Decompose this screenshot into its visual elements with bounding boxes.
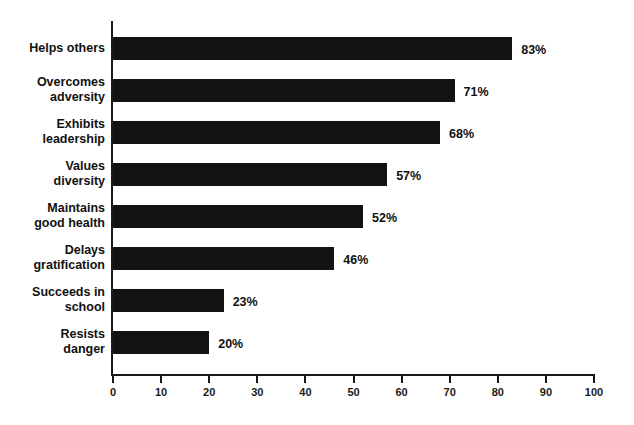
category-label: Valuesdiversity xyxy=(0,153,105,195)
x-axis-tick xyxy=(497,376,499,383)
x-axis-tick xyxy=(304,376,306,383)
x-axis-tick-label: 0 xyxy=(110,386,116,398)
bar-row: Helps others83% xyxy=(0,27,634,69)
x-axis-tick-label: 60 xyxy=(395,386,407,398)
category-label-line: Helps others xyxy=(29,41,105,56)
x-axis-tick-label: 90 xyxy=(540,386,552,398)
x-axis-tick xyxy=(449,376,451,383)
x-axis-tick xyxy=(401,376,403,383)
category-label-line: adversity xyxy=(50,90,105,105)
x-axis-tick-label: 40 xyxy=(299,386,311,398)
bar xyxy=(113,121,440,144)
x-axis-tick xyxy=(256,376,258,383)
x-axis-tick-label: 10 xyxy=(155,386,167,398)
category-label-line: Maintains xyxy=(47,201,105,216)
x-axis-tick xyxy=(593,376,595,383)
category-label-line: good health xyxy=(34,216,105,231)
x-axis-tick xyxy=(208,376,210,383)
category-label: Overcomesadversity xyxy=(0,69,105,111)
bar-row: Succeeds inschool23% xyxy=(0,279,634,321)
bar xyxy=(113,79,455,102)
x-axis-tick-label: 20 xyxy=(203,386,215,398)
bar xyxy=(113,289,224,312)
x-axis-tick xyxy=(160,376,162,383)
bar-value-label: 83% xyxy=(521,38,546,61)
category-label-line: Overcomes xyxy=(37,75,105,90)
category-label: Delaysgratification xyxy=(0,237,105,279)
bar xyxy=(113,331,209,354)
category-label: Exhibitsleadership xyxy=(0,111,105,153)
category-label-line: Resists xyxy=(61,327,105,342)
category-label-line: school xyxy=(65,300,105,315)
bar xyxy=(113,163,387,186)
category-label: Resistsdanger xyxy=(0,321,105,363)
x-axis-tick-label: 70 xyxy=(444,386,456,398)
x-axis-tick-label: 50 xyxy=(347,386,359,398)
x-axis-tick-label: 100 xyxy=(585,386,603,398)
plot-area: 0102030405060708090100 Helps others83%Ov… xyxy=(0,0,634,425)
bar xyxy=(113,37,512,60)
bar-value-label: 57% xyxy=(396,164,421,187)
category-label-line: leadership xyxy=(42,132,105,147)
x-axis-tick xyxy=(112,376,114,383)
category-label: Maintainsgood health xyxy=(0,195,105,237)
category-label-line: gratification xyxy=(33,258,105,273)
bar xyxy=(113,247,334,270)
bar-value-label: 68% xyxy=(449,122,474,145)
bar-value-label: 23% xyxy=(233,290,258,313)
x-axis-tick xyxy=(545,376,547,383)
x-axis-tick-label: 30 xyxy=(251,386,263,398)
bar-row: Maintainsgood health52% xyxy=(0,195,634,237)
bar-row: Delaysgratification46% xyxy=(0,237,634,279)
bar-value-label: 52% xyxy=(372,206,397,229)
x-axis-tick-label: 80 xyxy=(492,386,504,398)
category-label-line: Delays xyxy=(65,243,105,258)
bar-value-label: 71% xyxy=(464,80,489,103)
category-label: Succeeds inschool xyxy=(0,279,105,321)
bar-row: Resistsdanger20% xyxy=(0,321,634,363)
category-label-line: Succeeds in xyxy=(32,285,105,300)
category-label-line: diversity xyxy=(54,174,105,189)
bar-row: Valuesdiversity57% xyxy=(0,153,634,195)
bar xyxy=(113,205,363,228)
category-label-line: danger xyxy=(63,342,105,357)
bar-chart: 0102030405060708090100 Helps others83%Ov… xyxy=(0,0,634,425)
category-label-line: Values xyxy=(65,159,105,174)
bar-row: Overcomesadversity71% xyxy=(0,69,634,111)
bar-value-label: 20% xyxy=(218,332,243,355)
x-axis-tick xyxy=(353,376,355,383)
bar-value-label: 46% xyxy=(343,248,368,271)
category-label-line: Exhibits xyxy=(56,117,105,132)
category-label: Helps others xyxy=(0,27,105,69)
bar-row: Exhibitsleadership68% xyxy=(0,111,634,153)
